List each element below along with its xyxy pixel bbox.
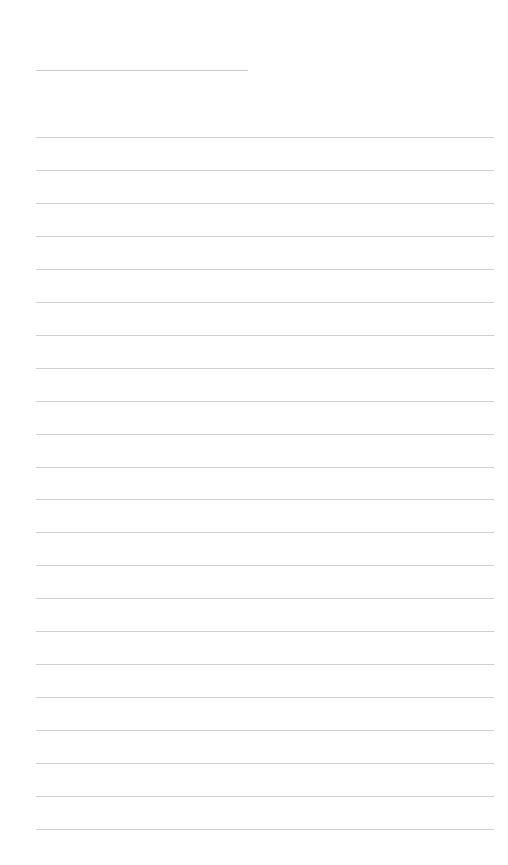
ruled-line bbox=[36, 467, 494, 468]
ruled-line bbox=[36, 829, 494, 830]
ruled-line bbox=[36, 532, 494, 533]
ruled-line bbox=[36, 269, 494, 270]
ruled-line bbox=[36, 598, 494, 599]
ruled-line bbox=[36, 302, 494, 303]
ruled-line bbox=[36, 730, 494, 731]
ruled-line bbox=[36, 796, 494, 797]
ruled-line bbox=[36, 434, 494, 435]
ruled-line bbox=[36, 763, 494, 764]
ruled-line bbox=[36, 697, 494, 698]
ruled-line bbox=[36, 203, 494, 204]
ruled-line bbox=[36, 401, 494, 402]
ruled-line bbox=[36, 335, 494, 336]
ruled-line bbox=[36, 368, 494, 369]
ruled-line bbox=[36, 236, 494, 237]
ruled-line bbox=[36, 631, 494, 632]
ruled-line bbox=[36, 137, 494, 138]
ruled-line bbox=[36, 664, 494, 665]
ruled-line bbox=[36, 170, 494, 171]
ruled-line bbox=[36, 499, 494, 500]
ruled-line bbox=[36, 565, 494, 566]
title-line bbox=[36, 70, 248, 71]
